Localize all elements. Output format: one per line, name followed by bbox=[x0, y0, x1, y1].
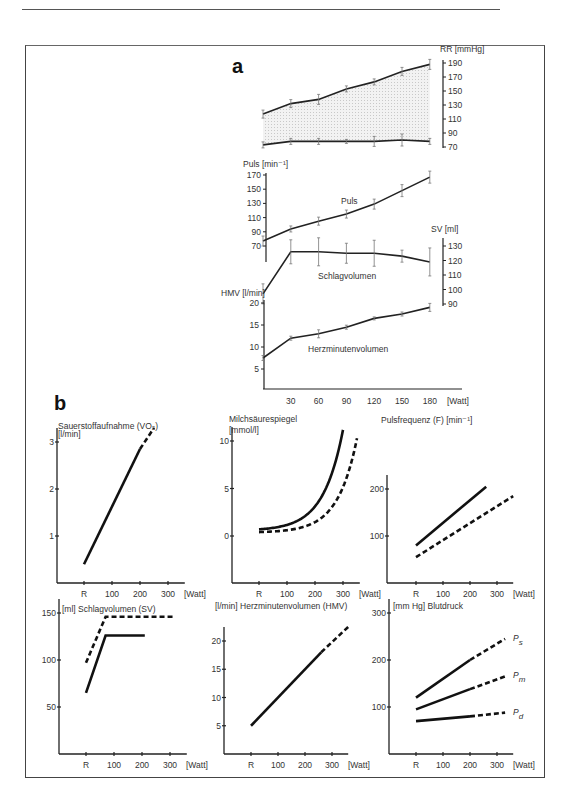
bp-Pd-solid bbox=[416, 716, 470, 721]
svg-text:70: 70 bbox=[252, 241, 262, 251]
hmv-line bbox=[251, 652, 321, 725]
chart-title: [ml] Schlagvolumen (SV) bbox=[62, 604, 156, 614]
svg-text:3: 3 bbox=[49, 437, 54, 447]
svg-text:110: 110 bbox=[448, 270, 462, 280]
panel-a-label: a bbox=[232, 55, 244, 77]
svg-text:[Watt]: [Watt] bbox=[513, 760, 535, 770]
svg-text:120: 120 bbox=[367, 396, 381, 406]
sv-curve-label: Schlagvolumen bbox=[318, 271, 376, 281]
puls-line bbox=[263, 177, 430, 241]
bp-series-label: Ps bbox=[513, 633, 523, 647]
chart-title: Pulsfrequenz (F) [min⁻¹] bbox=[381, 415, 472, 425]
svg-text:300: 300 bbox=[161, 589, 175, 599]
panel-a-rr-chart: 1901701501301109070 RR [mmHg] bbox=[262, 44, 485, 152]
svg-text:90: 90 bbox=[448, 128, 458, 138]
chart-title: [l/min] Herzminutenvolumen (HMV) bbox=[215, 601, 347, 611]
panel-b-chart-1: 321R100200300[Watt]Sauerstoffaufnahme (V… bbox=[49, 421, 206, 599]
panel-a-puls-chart: 1701501301109070 Puls [min⁻¹] Puls bbox=[243, 159, 431, 262]
svg-text:0: 0 bbox=[224, 531, 229, 541]
svg-text:200: 200 bbox=[308, 589, 322, 599]
svg-text:20: 20 bbox=[250, 298, 260, 308]
vo2-line bbox=[84, 449, 140, 564]
hmv-extrapolated bbox=[321, 627, 348, 652]
panel-b-charts: 321R100200300[Watt]Sauerstoffaufnahme (V… bbox=[42, 414, 535, 770]
svg-text:10: 10 bbox=[220, 436, 230, 446]
svg-text:100: 100 bbox=[280, 589, 294, 599]
svg-text:200: 200 bbox=[133, 589, 147, 599]
svg-text:200: 200 bbox=[463, 589, 477, 599]
lactate-solid bbox=[259, 430, 343, 529]
svg-text:170: 170 bbox=[247, 170, 261, 180]
panel-b-chart-4: 15010050R100200300[Watt][ml] Schlagvolum… bbox=[42, 599, 208, 770]
sv-y-ticks: 13012011010090 bbox=[443, 241, 462, 309]
svg-text:170: 170 bbox=[448, 72, 462, 82]
panel-b-chart-3: 200100R100200300[Watt]Pulsfrequenz (F) [… bbox=[370, 415, 535, 599]
svg-text:190: 190 bbox=[448, 58, 462, 68]
rr-axis-label: RR [mmHg] bbox=[440, 44, 484, 54]
svg-text:100: 100 bbox=[436, 760, 450, 770]
svg-text:200: 200 bbox=[135, 760, 149, 770]
svg-text:R: R bbox=[83, 760, 89, 770]
svg-text:2: 2 bbox=[49, 484, 54, 494]
figure-canvas: a 1901701501301109070 RR [mmHg] 17015013… bbox=[0, 0, 574, 812]
svg-text:300: 300 bbox=[490, 589, 504, 599]
svg-text:100: 100 bbox=[372, 702, 386, 712]
svg-text:60: 60 bbox=[314, 396, 324, 406]
svg-text:200: 200 bbox=[372, 655, 386, 665]
svg-text:150: 150 bbox=[448, 86, 462, 96]
svg-text:100: 100 bbox=[105, 589, 119, 599]
svg-text:300: 300 bbox=[325, 760, 339, 770]
svg-text:90: 90 bbox=[252, 227, 262, 237]
svg-text:5: 5 bbox=[216, 721, 221, 731]
svg-text:120: 120 bbox=[448, 256, 462, 266]
panel-a-x-unit: [Watt] bbox=[447, 396, 469, 406]
svg-text:5: 5 bbox=[224, 484, 229, 494]
bp-series-label: Pd bbox=[513, 707, 524, 721]
svg-text:300: 300 bbox=[336, 589, 350, 599]
sv-axis-label: SV [ml] bbox=[431, 224, 458, 234]
svg-text:1: 1 bbox=[49, 531, 54, 541]
hmv-y-ticks: 2015105 bbox=[250, 298, 264, 374]
panel-a-hmv-chart: 2015105 HMV [l/min] Herzminutenvolumen bbox=[221, 288, 431, 389]
lactate-dashed bbox=[259, 438, 357, 532]
svg-text:R: R bbox=[256, 589, 262, 599]
svg-text:20: 20 bbox=[212, 636, 222, 646]
hmv-axis-label: HMV [l/min] bbox=[221, 288, 265, 298]
svg-text:100: 100 bbox=[448, 285, 462, 295]
svg-text:130: 130 bbox=[247, 198, 261, 208]
svg-text:100: 100 bbox=[107, 760, 121, 770]
svg-text:100: 100 bbox=[370, 531, 384, 541]
panel-a-sv-chart: 13012011010090 SV [ml] Schlagvolumen bbox=[262, 224, 463, 309]
panel-b-chart-6: 300200100R100200300[Watt][mm Hg] Blutdru… bbox=[372, 599, 535, 770]
svg-text:R: R bbox=[81, 589, 87, 599]
puls-axis-label: Puls [min⁻¹] bbox=[243, 159, 288, 169]
svg-text:150: 150 bbox=[42, 608, 56, 618]
svg-text:100: 100 bbox=[271, 760, 285, 770]
bp-Pm-dashed bbox=[470, 676, 505, 689]
svg-text:100: 100 bbox=[42, 655, 56, 665]
bp-series-label: Pm bbox=[513, 670, 526, 684]
chart-title: [mm Hg] Blutdruck bbox=[393, 601, 464, 611]
panel-b-chart-2: 1050R100200300[Watt]Milchsäurespiegel[mm… bbox=[220, 414, 381, 599]
puls-error-bars bbox=[262, 171, 432, 246]
bp-Ps-dashed bbox=[470, 639, 505, 660]
rr-y-ticks: 1901701501301109070 bbox=[443, 58, 462, 152]
svg-text:300: 300 bbox=[163, 760, 177, 770]
svg-text:150: 150 bbox=[247, 184, 261, 194]
chart-title: Milchsäurespiegel bbox=[229, 414, 297, 424]
chart-unit: [mmol/l] bbox=[229, 425, 259, 435]
svg-text:100: 100 bbox=[436, 589, 450, 599]
svg-text:5: 5 bbox=[254, 364, 259, 374]
vo2-extrapolated bbox=[140, 428, 154, 449]
svg-text:130: 130 bbox=[448, 241, 462, 251]
svg-text:50: 50 bbox=[47, 702, 57, 712]
svg-text:70: 70 bbox=[448, 142, 458, 152]
svg-text:110: 110 bbox=[247, 213, 261, 223]
svg-text:[Watt]: [Watt] bbox=[513, 589, 535, 599]
svg-text:30: 30 bbox=[286, 396, 296, 406]
svg-text:[Watt]: [Watt] bbox=[186, 760, 208, 770]
svg-text:15: 15 bbox=[212, 664, 222, 674]
svg-text:150: 150 bbox=[395, 396, 409, 406]
chart-unit: [l/min] bbox=[58, 429, 81, 439]
bp-Pd-dashed bbox=[470, 713, 505, 717]
